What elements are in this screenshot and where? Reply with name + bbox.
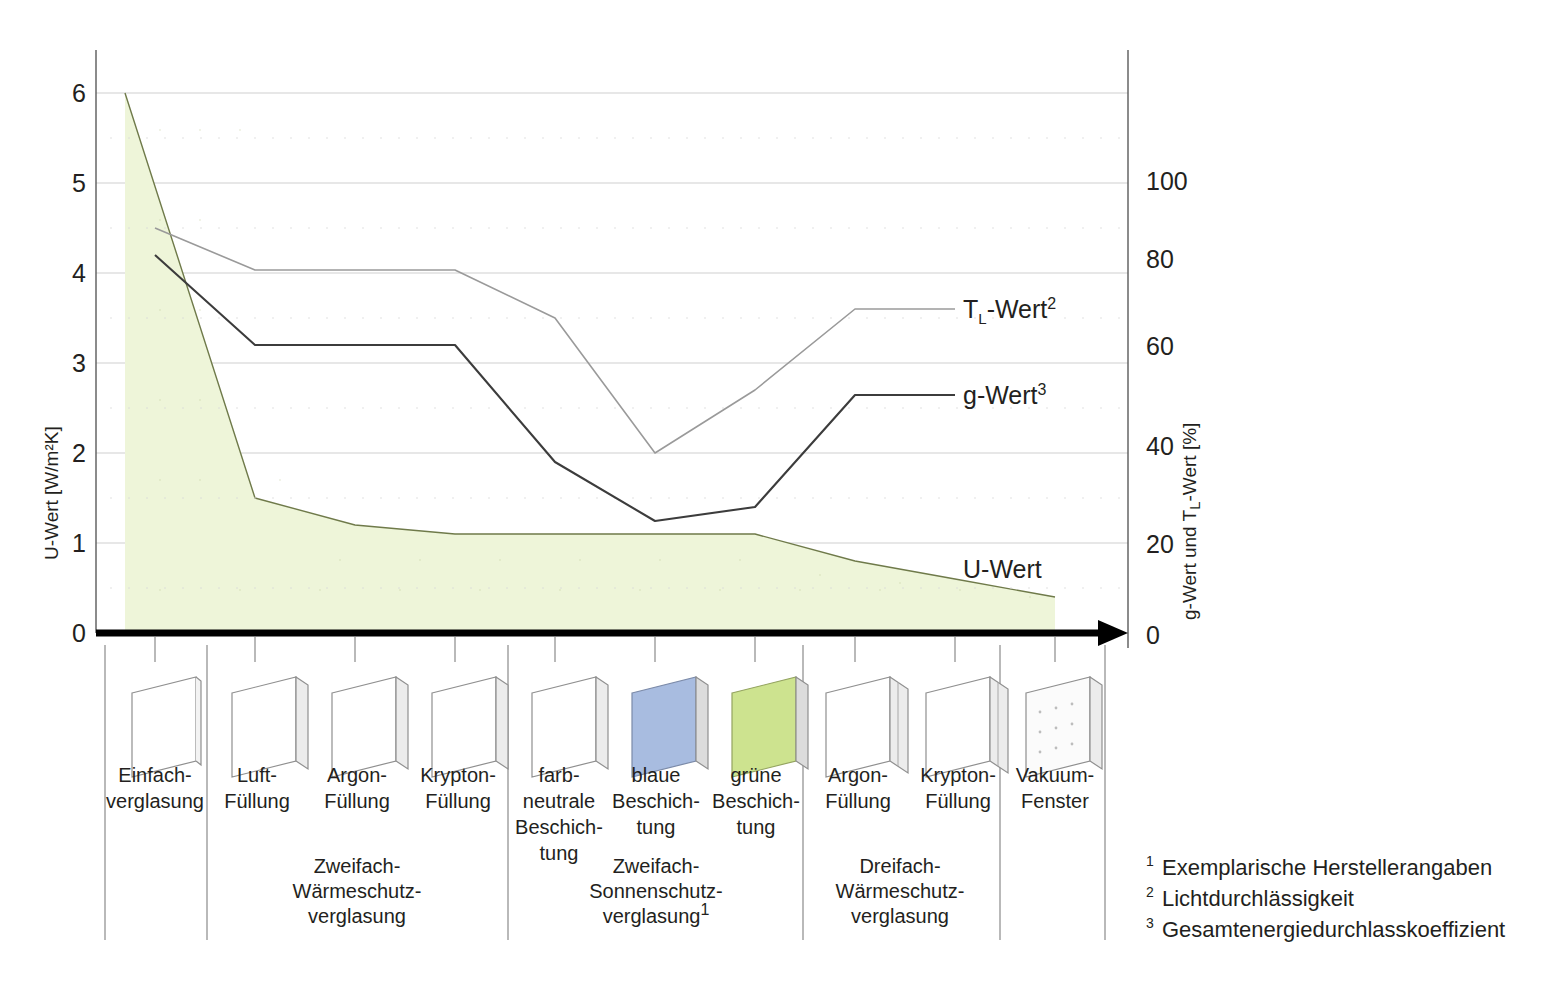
svg-text:Füllung: Füllung	[224, 790, 290, 812]
svg-text:g-Wert3: g-Wert3	[963, 381, 1047, 409]
pane-icon-double-argon	[332, 677, 408, 777]
pane-icon-single	[132, 677, 201, 777]
label-tl-letter: T	[963, 295, 978, 323]
pane-icon-triple-argon	[826, 677, 908, 777]
x-ticks	[155, 637, 1055, 662]
pane-icon-triple-krypton	[926, 677, 1008, 777]
label-g-sup: 3	[1038, 381, 1047, 398]
pane-icon-double-krypton	[432, 677, 508, 777]
svg-text:Einfach-: Einfach-	[118, 764, 191, 786]
left-tick-3: 3	[72, 349, 86, 377]
svg-text:Füllung: Füllung	[825, 790, 891, 812]
right-tick-100: 100	[1146, 167, 1188, 195]
svg-text:Wärmeschutz-: Wärmeschutz-	[293, 880, 422, 902]
svg-text:Luft-: Luft-	[237, 764, 277, 786]
footnotes: 1 Exemplarische Herstellerangaben 2 Lich…	[1146, 853, 1505, 942]
right-axis-title: g-Wert und TL-Wert [%]	[1179, 423, 1203, 620]
left-tick-1: 1	[72, 529, 86, 557]
chart-figure: 6 5 4 3 2 1 0 U-Wert [W/m²K] 100 80 60 4…	[0, 0, 1551, 990]
svg-text:Sonnenschutz-: Sonnenschutz-	[589, 880, 722, 902]
category-label-6: grüne Beschich- tung	[712, 764, 800, 838]
left-axis: 6 5 4 3 2 1 0 U-Wert [W/m²K]	[41, 50, 96, 647]
svg-text:verglasung: verglasung	[308, 905, 406, 927]
left-tick-6: 6	[72, 79, 86, 107]
svg-text:Dreifach-: Dreifach-	[859, 855, 940, 877]
pane-icon-double-farbneutral	[532, 677, 608, 777]
right-axis: 100 80 60 40 20 0 g-Wert und TL-Wert [%]	[1128, 50, 1203, 649]
svg-text:Wärmeschutz-: Wärmeschutz-	[836, 880, 965, 902]
svg-text:Fenster: Fenster	[1021, 790, 1089, 812]
right-axis-title-pre: g-Wert und T	[1179, 509, 1200, 620]
label-g-text: g-Wert	[963, 381, 1038, 409]
svg-text:blaue: blaue	[632, 764, 681, 786]
label-tl-rest: -Wert	[987, 295, 1048, 323]
svg-text:Beschich-: Beschich-	[612, 790, 700, 812]
svg-text:verglasung1: verglasung1	[603, 901, 710, 927]
group-label-dreifach-waermeschutz: Dreifach- Wärmeschutz- verglasung	[836, 855, 965, 927]
label-g-wert: g-Wert3	[963, 381, 1047, 409]
label-tl-sub: L	[978, 310, 986, 327]
footnote-text-3: Gesamtenergiedurchlasskoeffizient	[1162, 917, 1505, 942]
pane-icon-double-luft	[232, 677, 308, 777]
svg-text:Füllung: Füllung	[925, 790, 991, 812]
right-axis-title-post: -Wert [%]	[1179, 423, 1200, 502]
right-tick-40: 40	[1146, 432, 1174, 460]
group1-line3: verglasung	[603, 905, 701, 927]
pane-icon-double-gruen	[732, 677, 808, 777]
svg-text:Füllung: Füllung	[425, 790, 491, 812]
label-u-text: U-Wert	[963, 555, 1042, 583]
group-label-zweifach-sonnenschutz: Zweifach- Sonnenschutz- verglasung1	[589, 855, 722, 927]
svg-text:Argon-: Argon-	[828, 764, 888, 786]
svg-text:Beschich-: Beschich-	[712, 790, 800, 812]
footnote-marker-3: 3	[1146, 915, 1154, 931]
group1-sup: 1	[700, 901, 709, 918]
category-label-8: Krypton- Füllung	[920, 764, 996, 812]
svg-text:Beschich-: Beschich-	[515, 816, 603, 838]
series-g-wert-line	[155, 255, 955, 521]
footnote-text-2: Lichtdurchlässigkeit	[1162, 886, 1354, 911]
pane-icon-double-blau	[632, 677, 708, 777]
svg-text:tung: tung	[737, 816, 776, 838]
group-label-zweifach-waermeschutz: Zweifach- Wärmeschutz- verglasung	[293, 855, 422, 927]
left-tick-4: 4	[72, 259, 86, 287]
left-tick-2: 2	[72, 439, 86, 467]
svg-text:neutrale: neutrale	[523, 790, 595, 812]
right-tick-20: 20	[1146, 530, 1174, 558]
right-tick-80: 80	[1146, 245, 1174, 273]
footnote-marker-1: 1	[1146, 853, 1154, 869]
category-labels: Einfach- verglasung Luft- Füllung Argon-…	[106, 764, 1094, 864]
svg-text:Füllung: Füllung	[324, 790, 390, 812]
series-tl-wert-line	[155, 228, 955, 453]
category-label-7: Argon- Füllung	[825, 764, 891, 812]
label-tl-sup: 2	[1047, 295, 1056, 312]
svg-text:Vakuum-: Vakuum-	[1016, 764, 1095, 786]
svg-text:farb-: farb-	[538, 764, 579, 786]
svg-text:tung: tung	[637, 816, 676, 838]
svg-text:Krypton-: Krypton-	[420, 764, 496, 786]
svg-text:grüne: grüne	[730, 764, 781, 786]
category-label-3: Krypton- Füllung	[420, 764, 496, 812]
right-tick-0: 0	[1146, 621, 1160, 649]
label-tl-wert: TL-Wert2	[963, 295, 1056, 327]
footnote-marker-2: 2	[1146, 884, 1154, 900]
right-axis-title-sub: L	[1186, 501, 1203, 509]
category-label-2: Argon- Füllung	[324, 764, 390, 812]
right-tick-60: 60	[1146, 332, 1174, 360]
pane-icon-vakuum	[1026, 677, 1102, 777]
category-label-0: Einfach- verglasung	[106, 764, 204, 812]
svg-text:TL-Wert2: TL-Wert2	[963, 295, 1056, 327]
category-label-4: farb- neutrale Beschich- tung	[515, 764, 603, 864]
svg-text:verglasung: verglasung	[851, 905, 949, 927]
left-axis-title: U-Wert [W/m²K]	[41, 426, 62, 560]
svg-text:Zweifach-: Zweifach-	[314, 855, 401, 877]
footnote-text-1: Exemplarische Herstellerangaben	[1162, 855, 1492, 880]
category-label-5: blaue Beschich- tung	[612, 764, 700, 838]
category-label-9: Vakuum- Fenster	[1016, 764, 1095, 812]
svg-text:verglasung: verglasung	[106, 790, 204, 812]
svg-text:Zweifach-: Zweifach-	[613, 855, 700, 877]
group-labels: Zweifach- Wärmeschutz- verglasung Zweifa…	[293, 855, 965, 927]
svg-text:Argon-: Argon-	[327, 764, 387, 786]
svg-text:Krypton-: Krypton-	[920, 764, 996, 786]
left-tick-0: 0	[72, 619, 86, 647]
glazing-performance-chart: 6 5 4 3 2 1 0 U-Wert [W/m²K] 100 80 60 4…	[0, 0, 1551, 990]
